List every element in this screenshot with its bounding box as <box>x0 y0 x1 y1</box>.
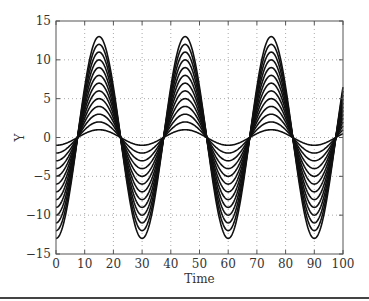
x-tick-label: 10 <box>77 257 92 271</box>
y-axis-label: Y <box>13 132 27 142</box>
grid-lines <box>56 21 343 254</box>
y-tick-label: 0 <box>43 131 51 145</box>
y-tick-label: 15 <box>36 14 51 28</box>
x-tick-label: 90 <box>307 257 322 271</box>
x-tick-label: 20 <box>106 257 121 271</box>
y-tick-label: −15 <box>26 247 51 261</box>
x-tick-label: 0 <box>52 257 60 271</box>
y-tick-label: −5 <box>33 169 51 183</box>
x-tick-label: 40 <box>163 257 178 271</box>
x-tick-label: 80 <box>278 257 293 271</box>
x-tick-label: 100 <box>332 257 355 271</box>
x-tick-label: 60 <box>221 257 236 271</box>
line-chart: 0102030405060708090100 −15−10−5051015 Ti… <box>0 0 369 301</box>
x-tick-label: 30 <box>134 257 149 271</box>
x-tick-label: 70 <box>249 257 264 271</box>
y-tick-label: −10 <box>26 208 51 222</box>
y-tick-label: 10 <box>36 53 51 67</box>
x-axis-ticks: 0102030405060708090100 <box>52 21 354 271</box>
y-tick-label: 5 <box>43 92 51 106</box>
x-tick-label: 50 <box>192 257 207 271</box>
x-axis-label: Time <box>184 272 214 286</box>
bottom-rule <box>0 297 369 299</box>
